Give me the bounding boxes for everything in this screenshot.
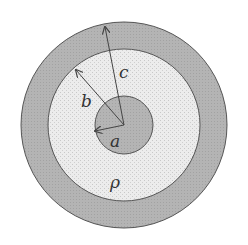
concentric-circles-diagram: c b a ρ xyxy=(0,0,248,245)
label-c: c xyxy=(119,62,129,82)
label-b: b xyxy=(81,91,92,111)
label-rho: ρ xyxy=(109,172,120,192)
label-a: a xyxy=(110,131,120,151)
